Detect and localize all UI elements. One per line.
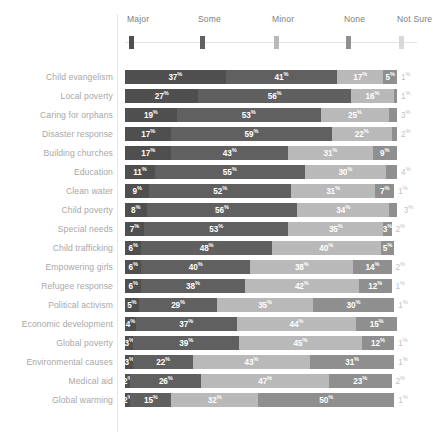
bar-segment-some[interactable]: 39% xyxy=(133,336,239,350)
segment-value-number: 17 xyxy=(141,149,150,158)
bar-segment-none[interactable] xyxy=(386,165,397,179)
bar-segment-none[interactable]: 9% xyxy=(373,146,397,160)
bar-segment-none[interactable]: 3% xyxy=(383,222,391,236)
bar-segment-none[interactable]: 5% xyxy=(381,241,395,255)
bar-segment-minor[interactable]: 42% xyxy=(245,279,359,293)
stacked-bar: 8%56%34%3% xyxy=(125,203,397,217)
bar-segment-none[interactable]: 14% xyxy=(353,260,391,274)
bar-segment-minor[interactable]: 32% xyxy=(171,393,258,407)
percent-sign: % xyxy=(400,261,405,267)
bar-segment-minor[interactable]: 30% xyxy=(305,165,387,179)
bar-segment-none[interactable] xyxy=(394,89,397,103)
bar-segment-minor[interactable]: 38% xyxy=(250,260,353,274)
bar-segment-none[interactable] xyxy=(392,127,397,141)
bar-segment-minor[interactable]: 44% xyxy=(237,317,357,331)
bar-segment-minor[interactable]: 31% xyxy=(291,184,375,198)
bar-segment-some[interactable]: 29% xyxy=(139,298,218,312)
percent-sign: % xyxy=(302,337,307,343)
bar-segment-some[interactable]: 26% xyxy=(130,374,201,388)
bar-segment-minor[interactable]: 17% xyxy=(337,70,383,84)
bar-segment-major[interactable]: 19% xyxy=(125,108,177,122)
bar-segment-major[interactable]: 17% xyxy=(125,146,171,160)
bar-segment-major[interactable]: 6% xyxy=(125,260,141,274)
bar-segment-some[interactable]: 53% xyxy=(177,108,321,122)
bar-segment-major[interactable]: 37% xyxy=(125,70,226,84)
segment-value-label: 16% xyxy=(366,91,380,101)
bar-segment-minor[interactable]: 22% xyxy=(332,127,392,141)
percent-sign: % xyxy=(153,109,158,115)
segment-value-label: 55% xyxy=(223,167,237,177)
bar-segment-minor[interactable]: 31% xyxy=(288,146,372,160)
segment-value-label: 38% xyxy=(186,281,200,291)
bar-segment-minor[interactable]: 34% xyxy=(297,203,389,217)
bar-segment-major[interactable]: 11% xyxy=(125,165,155,179)
bar-segment-none[interactable]: 5% xyxy=(383,70,397,84)
segment-value-number: 22 xyxy=(156,358,165,367)
bar-segment-some[interactable]: 48% xyxy=(141,241,272,255)
segment-value-label: 43% xyxy=(223,148,237,158)
legend-swatch-none xyxy=(346,36,351,49)
bar-segment-minor[interactable]: 25% xyxy=(321,108,389,122)
segment-value-label: 32% xyxy=(208,395,222,405)
bar-segment-none[interactable]: 12% xyxy=(362,336,395,350)
bar-segment-some[interactable]: 59% xyxy=(171,127,331,141)
chart-row: Special needs7%53%35%3%2% xyxy=(0,222,433,241)
segment-value-label: 37% xyxy=(168,72,182,82)
bar-segment-major[interactable]: 3% xyxy=(125,355,133,369)
percent-sign: % xyxy=(355,299,360,305)
bar-segment-minor[interactable]: 47% xyxy=(201,374,329,388)
bar-segment-some[interactable]: 40% xyxy=(141,260,250,274)
bar-segment-major[interactable]: 6% xyxy=(125,279,141,293)
bar-segment-some[interactable]: 15% xyxy=(130,393,171,407)
percent-sign: % xyxy=(224,204,229,210)
bar-segment-some[interactable]: 56% xyxy=(198,89,350,103)
bar-segment-none[interactable]: 30% xyxy=(313,298,395,312)
stacked-bar: 11%55%30%4% xyxy=(125,165,397,179)
percent-sign: % xyxy=(387,223,391,229)
bar-segment-none[interactable]: 12% xyxy=(359,279,392,293)
stacked-bar: 3%39%45%12%1% xyxy=(125,336,397,350)
bar-segment-minor[interactable]: 35% xyxy=(288,222,383,236)
bar-segment-minor[interactable]: 35% xyxy=(217,298,312,312)
bar-segment-some[interactable]: 56% xyxy=(147,203,298,217)
bar-segment-some[interactable]: 53% xyxy=(144,222,288,236)
bar-segment-major[interactable]: 3% xyxy=(125,336,133,350)
bar-segment-major[interactable]: 8% xyxy=(125,203,147,217)
bar-segment-minor[interactable]: 40% xyxy=(272,241,381,255)
segment-value-number: 31 xyxy=(326,187,335,196)
bar-segment-none[interactable]: 7% xyxy=(375,184,394,198)
stacked-bar: 7%53%35%3%2% xyxy=(125,222,397,236)
bar-segment-minor[interactable]: 16% xyxy=(351,89,395,103)
bar-segment-major[interactable]: 4% xyxy=(125,317,136,331)
percent-sign: % xyxy=(277,90,282,96)
bar-segment-none[interactable]: 31% xyxy=(310,355,394,369)
bar-segment-major[interactable]: 6% xyxy=(125,241,141,255)
bar-segment-none[interactable] xyxy=(389,108,397,122)
segment-value-label: 12% xyxy=(368,281,382,291)
segment-value-number: 43 xyxy=(223,149,232,158)
bar-segment-none[interactable]: 15% xyxy=(356,317,397,331)
stacked-bar: 2%15%32%50%1% xyxy=(125,393,397,407)
bar-segment-major[interactable]: 5% xyxy=(125,298,139,312)
bar-segment-none[interactable]: 50% xyxy=(258,393,394,407)
bar-segment-some[interactable]: 43% xyxy=(171,146,288,160)
bar-segment-minor[interactable]: 43% xyxy=(193,355,310,369)
bar-segment-none[interactable]: 23% xyxy=(329,374,392,388)
bar-segment-some[interactable]: 37% xyxy=(136,317,237,331)
segment-value-number: 48 xyxy=(200,244,209,253)
bar-segment-some[interactable]: 55% xyxy=(155,165,305,179)
bar-segment-major[interactable]: 9% xyxy=(125,184,149,198)
bar-segment-major[interactable]: 17% xyxy=(125,127,171,141)
bar-segment-some[interactable]: 22% xyxy=(133,355,193,369)
percent-sign: % xyxy=(304,261,309,267)
bar-segment-major[interactable]: 27% xyxy=(125,89,198,103)
bar-segment-none[interactable] xyxy=(389,203,397,217)
segment-value-number: 12 xyxy=(368,282,377,291)
bar-segment-minor[interactable]: 45% xyxy=(239,336,361,350)
bar-segment-some[interactable]: 52% xyxy=(149,184,290,198)
bar-segment-some[interactable]: 38% xyxy=(141,279,244,293)
bar-segment-major[interactable]: 7% xyxy=(125,222,144,236)
chart-row: Education11%55%30%4% xyxy=(0,165,433,184)
bar-segment-some[interactable]: 41% xyxy=(226,70,338,84)
row-category-label: Global warming xyxy=(0,395,113,405)
